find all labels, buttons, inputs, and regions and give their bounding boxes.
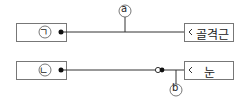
top-left-label: ㄱ	[39, 24, 48, 39]
neuron-diagram	[0, 0, 248, 105]
bottom-right-label: 눈	[204, 63, 215, 80]
bottom-left-label: ㄴ	[39, 62, 48, 77]
top-right-label: 골격근	[196, 25, 229, 42]
marker-a-label: a	[121, 3, 127, 14]
marker-b-label: b	[172, 82, 178, 93]
ganglion-dot-icon	[160, 68, 165, 73]
